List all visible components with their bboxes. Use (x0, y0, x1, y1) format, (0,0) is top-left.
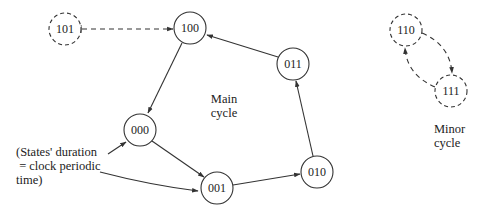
state-label-001: 001 (208, 181, 226, 195)
state-label-011: 011 (284, 57, 302, 71)
node-011: 011 (277, 48, 309, 80)
node-000: 000 (124, 114, 156, 146)
node-010: 010 (301, 156, 333, 188)
node-101: 101 (49, 13, 81, 45)
minor-cycle-label: Minor cycle (434, 122, 465, 150)
state-label-110: 110 (397, 23, 415, 37)
edge-100-to-000 (148, 43, 182, 113)
edge-010-to-011 (296, 81, 313, 156)
edge-111-to-110 (405, 48, 435, 87)
edge-110-to-111 (422, 33, 452, 73)
state-label-111: 111 (442, 84, 459, 98)
edges (81, 25, 452, 191)
node-001: 001 (201, 172, 233, 204)
state-label-010: 010 (308, 165, 326, 179)
state-label-100: 100 (181, 21, 199, 35)
state-label-101: 101 (56, 22, 74, 36)
annotation-pointer-to-001 (100, 172, 198, 191)
node-100: 100 (174, 12, 206, 44)
main-cycle-label: Main cycle (206, 92, 242, 120)
node-110: 110 (390, 14, 422, 46)
annotation-pointer-to-000 (108, 142, 126, 154)
state-label-000: 000 (131, 123, 149, 137)
edge-000-to-001 (152, 141, 204, 177)
states-duration-annotation: (States' duration = clock periodic time) (16, 145, 100, 187)
node-111: 111 (435, 75, 467, 107)
edge-001-to-010 (233, 174, 300, 185)
edge-011-to-100 (207, 35, 278, 57)
